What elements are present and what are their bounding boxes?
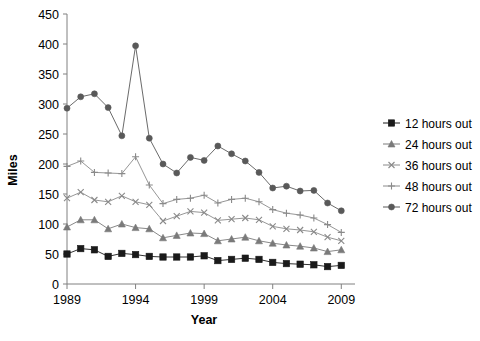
- data-point-marker: [160, 254, 166, 260]
- data-point-marker: [215, 257, 221, 263]
- x-tick-label: 1989: [53, 293, 81, 307]
- data-point-marker: [187, 195, 194, 202]
- data-point-marker: [338, 246, 345, 253]
- data-point-marker: [215, 143, 221, 149]
- line-chart: 050100150200250300350400450 198919941999…: [0, 0, 480, 341]
- data-point-marker: [270, 259, 276, 265]
- data-point-marker: [173, 196, 180, 203]
- data-point-marker: [174, 213, 180, 219]
- data-point-marker: [270, 185, 276, 191]
- data-point-marker: [78, 189, 84, 195]
- data-point-marker: [297, 212, 304, 219]
- chart-container: 050100150200250300350400450 198919941999…: [0, 0, 480, 341]
- data-point-marker: [338, 238, 344, 244]
- data-point-marker: [388, 120, 394, 126]
- data-point-marker: [119, 133, 125, 139]
- y-tick-label: 300: [38, 98, 59, 112]
- y-tick-label: 150: [38, 188, 59, 202]
- x-tick-label: 2009: [327, 293, 355, 307]
- data-point-marker: [118, 221, 125, 228]
- data-point-marker: [297, 261, 303, 267]
- series-5: [64, 43, 344, 214]
- data-point-marker: [160, 200, 167, 207]
- data-point-marker: [174, 254, 180, 260]
- legend-label: 48 hours out: [405, 180, 472, 194]
- data-point-marker: [297, 188, 303, 194]
- data-point-marker: [311, 262, 317, 268]
- data-point-marker: [119, 250, 125, 256]
- y-tick-label: 200: [38, 158, 59, 172]
- x-tick-label: 2004: [259, 293, 287, 307]
- data-point-marker: [229, 151, 235, 157]
- data-point-marker: [91, 247, 97, 253]
- data-point-marker: [146, 135, 152, 141]
- series-group: [64, 43, 345, 270]
- data-point-marker: [105, 253, 111, 259]
- data-point-marker: [325, 234, 331, 240]
- data-point-marker: [187, 154, 193, 160]
- x-tick-label: 1999: [190, 293, 218, 307]
- legend-label: 24 hours out: [405, 138, 472, 152]
- data-point-marker: [160, 161, 166, 167]
- data-point-marker: [64, 251, 70, 257]
- data-point-marker: [310, 215, 317, 222]
- legend-item-2[interactable]: 24 hours out: [383, 138, 472, 152]
- data-point-marker: [214, 200, 221, 207]
- data-point-marker: [242, 195, 249, 202]
- data-point-marker: [201, 253, 207, 259]
- data-point-marker: [78, 245, 84, 251]
- legend-item-3[interactable]: 36 hours out: [383, 159, 472, 173]
- data-point-marker: [389, 204, 395, 210]
- chart-legend: 12 hours out24 hours out36 hours out48 h…: [383, 117, 472, 215]
- legend-item-4[interactable]: 48 hours out: [383, 180, 472, 194]
- x-axis-ticks: 19891994199920042009: [53, 284, 355, 307]
- y-axis-title: Miles: [6, 154, 20, 185]
- data-point-marker: [105, 170, 112, 177]
- data-point-marker: [324, 263, 330, 269]
- data-point-marker: [242, 255, 248, 261]
- data-point-marker: [388, 183, 395, 190]
- data-point-marker: [105, 105, 111, 111]
- data-point-marker: [324, 221, 331, 228]
- data-point-marker: [338, 262, 344, 268]
- legend-item-5[interactable]: 72 hours out: [383, 201, 472, 215]
- series-line: [67, 46, 341, 211]
- legend-label: 12 hours out: [405, 117, 472, 131]
- data-point-marker: [256, 198, 263, 205]
- y-axis-ticks: 050100150200250300350400450: [38, 8, 67, 292]
- series-2: [64, 216, 345, 254]
- data-point-marker: [201, 192, 208, 199]
- y-tick-label: 350: [38, 68, 59, 82]
- data-point-marker: [64, 105, 70, 111]
- data-point-marker: [311, 187, 317, 193]
- data-point-marker: [146, 253, 152, 259]
- data-point-marker: [119, 193, 125, 199]
- data-point-marker: [160, 218, 166, 224]
- data-point-marker: [269, 206, 276, 213]
- x-tick-label: 1994: [122, 293, 150, 307]
- data-point-marker: [325, 200, 331, 206]
- data-point-marker: [187, 254, 193, 260]
- data-point-marker: [228, 256, 234, 262]
- y-tick-label: 250: [38, 128, 59, 142]
- x-axis-title: Year: [191, 313, 218, 327]
- data-point-marker: [256, 256, 262, 262]
- y-tick-label: 450: [38, 8, 59, 22]
- data-point-marker: [283, 183, 289, 189]
- data-point-marker: [228, 196, 235, 203]
- data-point-marker: [242, 234, 249, 241]
- data-point-marker: [338, 208, 344, 214]
- y-tick-label: 50: [45, 248, 59, 262]
- legend-label: 72 hours out: [405, 201, 472, 215]
- data-point-marker: [133, 43, 139, 49]
- data-point-marker: [174, 170, 180, 176]
- data-point-marker: [201, 157, 207, 163]
- legend-item-1[interactable]: 12 hours out: [383, 117, 472, 131]
- data-point-marker: [132, 251, 138, 257]
- legend-label: 36 hours out: [405, 159, 472, 173]
- data-point-marker: [256, 169, 262, 175]
- series-4: [64, 153, 345, 236]
- y-tick-label: 0: [52, 278, 59, 292]
- data-point-marker: [91, 91, 97, 97]
- data-point-marker: [105, 225, 112, 232]
